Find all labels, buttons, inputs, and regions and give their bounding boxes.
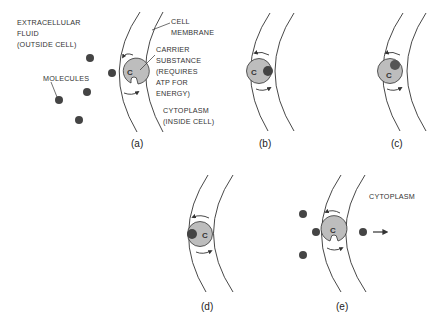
molecule (75, 116, 83, 124)
molecules-leader-line (51, 82, 57, 97)
molecule (312, 228, 320, 236)
carrier-letter: C (127, 68, 133, 77)
panel-label-d: (d) (201, 301, 213, 312)
molecule (299, 210, 307, 218)
rotation-arrow-up (193, 216, 209, 218)
molecule (108, 69, 116, 77)
extracellular-label-3: (OUTSIDE CELL) (17, 40, 77, 49)
rotation-arrow-up (386, 52, 400, 55)
panel-label-a: (a) (131, 138, 143, 149)
cytoplasm-label-2: (INSIDE CELL) (163, 117, 214, 126)
bound-molecule (263, 66, 273, 76)
released-molecule (359, 228, 367, 236)
extracellular-label-1: EXTRACELLULAR (17, 18, 81, 27)
rotation-arrow-down (387, 88, 401, 90)
rotation-arrow-up (123, 54, 133, 57)
cytoplasm-label-e: CYTOPLASM (369, 192, 415, 201)
carrier-letter: C (330, 226, 336, 235)
molecules-label: MOLECULES (43, 74, 89, 83)
panel-e: C CYTOPLASM (e) (299, 175, 415, 312)
membrane-inner-line (275, 13, 294, 131)
rotation-arrow-up (326, 211, 340, 213)
panel-b: C (b) (247, 13, 295, 149)
molecule (55, 96, 63, 104)
rotation-arrow-up (255, 52, 269, 55)
panel-label-b: (b) (259, 138, 271, 149)
rotation-arrow-down (124, 92, 138, 94)
extracellular-label-2: FLUID (17, 29, 39, 38)
cytoplasm-label-1: CYTOPLASM (163, 106, 209, 115)
molecule (86, 54, 94, 62)
carrier-label-2: SUBSTANCE (156, 56, 201, 65)
panel-c: C (c) (378, 13, 427, 149)
bound-molecule (390, 60, 400, 70)
membrane-inner-line (214, 175, 234, 292)
carrier-label-5: ENERGY) (156, 89, 190, 98)
carrier-label-3: (REQUIRES (156, 67, 198, 76)
carrier-transport-diagram: C EXTRACELLULAR FLUID (OUTSIDE CELL) CEL… (0, 0, 445, 329)
carrier-letter: C (251, 68, 257, 77)
membrane-label-1: CELL (171, 17, 190, 26)
carrier-letter: C (202, 231, 208, 240)
membrane-inner-line (407, 13, 426, 131)
membrane-label-2: MEMBRANE (171, 28, 214, 37)
carrier-letter: C (386, 71, 392, 80)
panel-label-c: (c) (391, 138, 403, 149)
panel-label-e: (e) (336, 301, 348, 312)
molecule (299, 251, 307, 259)
panel-d: C (d) (187, 175, 233, 312)
rotation-arrow-down (196, 251, 211, 253)
molecule (83, 88, 91, 96)
panel-a: C EXTRACELLULAR FLUID (OUTSIDE CELL) CEL… (17, 12, 214, 149)
rotation-arrow-down (256, 88, 270, 90)
carrier-label-4: ATP FOR (156, 78, 188, 87)
carrier-label-1: CARRIER (156, 45, 190, 54)
bound-molecule (187, 229, 197, 239)
rotation-arrow-down (327, 248, 342, 250)
membrane-leader-line (152, 23, 170, 30)
